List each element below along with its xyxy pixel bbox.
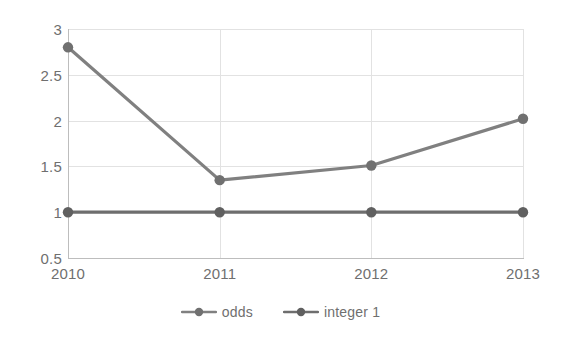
legend-item-odds[interactable]: odds [181, 304, 253, 320]
legend-label: odds [222, 304, 253, 320]
data-point [366, 160, 376, 170]
line-marker-icon [283, 306, 319, 318]
data-point [214, 175, 224, 185]
series-line-odds [68, 47, 523, 180]
data-point [366, 207, 376, 217]
data-point [518, 114, 528, 124]
data-point [518, 207, 528, 217]
line-chart: 3 2.5 2 1.5 1 0.5 2010 2011 2012 2013 [0, 0, 561, 343]
legend-item-integer-1[interactable]: integer 1 [283, 304, 380, 320]
data-point [214, 207, 224, 217]
line-marker-icon [181, 306, 217, 318]
legend-label: integer 1 [324, 304, 380, 320]
data-point [63, 207, 73, 217]
series-layer [0, 0, 561, 343]
series-markers-odds [63, 42, 528, 185]
data-point [63, 42, 73, 52]
chart-legend: odds integer 1 [0, 304, 561, 320]
